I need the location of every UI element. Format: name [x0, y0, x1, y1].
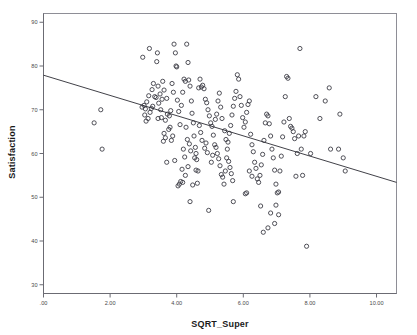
scatter-point [228, 165, 232, 169]
scatter-point [227, 159, 231, 163]
plot-canvas: .002.004.006.008.0010.00 90807060504030 … [0, 0, 417, 335]
scatter-point [231, 104, 235, 108]
y-tick-label: 30 [31, 282, 37, 288]
scatter-point [183, 155, 187, 159]
scatter-point [151, 81, 155, 85]
scatter-point [235, 73, 239, 77]
x-tick-label: 2.00 [105, 300, 116, 306]
scatter-point [343, 169, 347, 173]
scatter-point [245, 191, 249, 195]
scatter-point [189, 149, 193, 153]
scatter-point [205, 151, 209, 155]
scatter-point [338, 112, 342, 116]
scatter-point [161, 79, 165, 83]
y-tick-label: 90 [31, 19, 37, 25]
scatter-point [259, 204, 263, 208]
scatter-point [215, 112, 219, 116]
scatter-point [155, 60, 159, 64]
scatter-point [302, 134, 306, 138]
scatter-point [175, 98, 179, 102]
scatter-point [273, 221, 277, 225]
scatter-point [147, 94, 151, 98]
scatter-point [155, 51, 159, 55]
scatter-point [171, 90, 175, 94]
scatter-point [220, 116, 224, 120]
scatter-point [165, 160, 169, 164]
scatter-point [186, 165, 190, 169]
scatter-point [318, 116, 322, 120]
scatter-point [231, 200, 235, 204]
scatter-point [100, 147, 104, 151]
scatter-point [213, 117, 217, 121]
scatter-point [281, 135, 285, 139]
y-tick-label: 60 [31, 151, 37, 157]
scatter-point [198, 77, 202, 81]
scatter-point [261, 152, 265, 156]
scatter-point [222, 182, 226, 186]
scatter-point [185, 137, 189, 141]
scatter-point [163, 118, 167, 122]
scatter-point [200, 138, 204, 142]
scatter-point [160, 97, 164, 101]
scatter-point [173, 51, 177, 55]
scatter-point [229, 172, 233, 176]
scatter-point [231, 179, 235, 183]
scatter-point [247, 169, 251, 173]
scatter-point [189, 99, 193, 103]
scatter-point [199, 130, 203, 134]
scatter-point [269, 134, 273, 138]
scatter-point [165, 96, 169, 100]
scatter-point [308, 151, 312, 155]
x-tick-label: 6.00 [238, 300, 249, 306]
scatter-point [206, 108, 210, 112]
scatter-points [92, 42, 347, 248]
scatter-point [273, 168, 277, 172]
scatter-point [258, 173, 262, 177]
scatter-point [207, 114, 211, 118]
scatter-point [279, 154, 283, 158]
scatter-point [197, 86, 201, 90]
scatter-point [211, 133, 215, 137]
scatter-point [158, 92, 162, 96]
scatter-point [249, 132, 253, 136]
scatter-point [209, 160, 213, 164]
scatter-point [237, 77, 241, 81]
x-tick-label: 4.00 [171, 300, 182, 306]
scatter-point [194, 151, 198, 155]
plot-frame [44, 14, 397, 294]
scatter-point [203, 146, 207, 150]
scatter-point [188, 200, 192, 204]
y-tick-label: 40 [31, 238, 37, 244]
scatter-point [150, 88, 154, 92]
scatter-point [239, 103, 243, 107]
scatter-point [178, 123, 182, 127]
scatter-point [274, 203, 278, 207]
y-axis-title: Satisfaction [7, 125, 17, 178]
scatter-point [282, 120, 286, 124]
scatter-point [242, 125, 246, 129]
scatter-point [177, 109, 181, 113]
scatter-point [254, 166, 258, 170]
scatter-point [170, 81, 174, 85]
scatter-point [169, 138, 173, 142]
scatter-point [156, 84, 160, 88]
y-tick-label: 70 [31, 107, 37, 113]
scatter-point [162, 131, 166, 135]
scatter-point [148, 110, 152, 114]
scatter-point [270, 147, 274, 151]
scatter-point [271, 156, 275, 160]
y-axis-ticks: 90807060504030 [31, 19, 43, 288]
scatter-point [207, 208, 211, 212]
scatter-point [296, 134, 300, 138]
scatter-point [250, 143, 254, 147]
scatter-point [341, 156, 345, 160]
scatter-point [195, 181, 199, 185]
scatter-point [147, 46, 151, 50]
scatter-point [141, 55, 145, 59]
scatter-point [204, 141, 208, 145]
scatter-point [277, 190, 281, 194]
scatter-point [173, 158, 177, 162]
scatter-point [223, 169, 227, 173]
scatter-point [277, 213, 281, 217]
scatter-point [192, 134, 196, 138]
